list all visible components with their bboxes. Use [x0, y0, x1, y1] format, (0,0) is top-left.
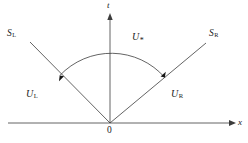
origin-label: 0	[107, 126, 112, 136]
t-axis-label: t	[107, 1, 110, 10]
x-axis-label: x	[238, 118, 242, 127]
arc-left-arrowhead-icon	[59, 76, 64, 82]
right-wave-label: SR	[209, 29, 218, 39]
left-state-label: UL	[26, 89, 38, 100]
left-state-subscript: L	[33, 92, 37, 99]
diagram-canvas	[0, 0, 248, 143]
right-wave-subscript: R	[214, 31, 219, 38]
right-state-subscript: R	[178, 92, 183, 99]
riemann-wave-diagram: t x 0 SL SR U* UL UR	[0, 0, 248, 143]
star-region-arc	[60, 53, 165, 77]
x-axis-arrowhead-icon	[229, 120, 236, 126]
left-wave-label: SL	[7, 29, 16, 39]
right-state-label: UR	[171, 89, 183, 100]
t-axis-arrowhead-icon	[107, 13, 112, 20]
left-wave-subscript: L	[12, 31, 16, 38]
star-state-subscript: *	[139, 36, 144, 45]
star-state-label: U*	[132, 32, 144, 45]
right-wave-ray	[110, 43, 206, 123]
